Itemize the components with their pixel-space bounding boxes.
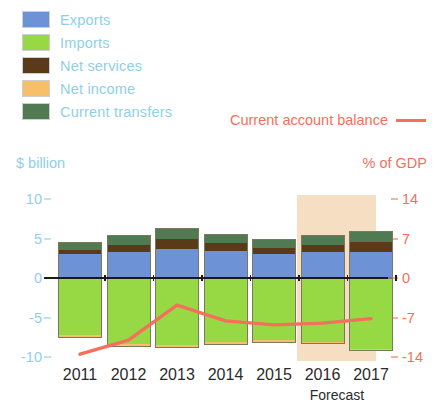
current-account-balance-line	[0, 0, 437, 409]
forecast-note: Forecast	[292, 387, 382, 403]
chart-root: Exports Imports Net services Net income …	[0, 0, 437, 409]
xaxis-label-2017: 2017	[343, 366, 399, 384]
plot-area: 10 5 0 -5 -10 14 7 0 -7 -14	[0, 0, 437, 409]
